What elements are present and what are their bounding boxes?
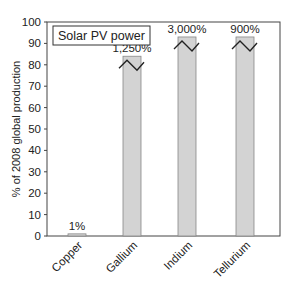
x-tick-label: Copper <box>49 239 84 274</box>
y-tick-label: 20 <box>28 187 41 199</box>
y-tick-label: 100 <box>22 16 41 28</box>
y-axis-ticks: 0102030405060708090100 <box>22 16 47 242</box>
bar-gallium <box>123 56 141 236</box>
bars: 1%1,250%3,000%900% <box>68 23 260 236</box>
bar-tellurium <box>236 37 254 236</box>
y-axis-label: % of 2008 global production <box>10 61 22 197</box>
data-label: 1% <box>69 220 86 232</box>
y-tick-label: 50 <box>28 123 41 135</box>
data-label: 900% <box>230 23 259 35</box>
y-tick-label: 10 <box>28 209 41 221</box>
y-tick-label: 80 <box>28 59 41 71</box>
x-tick-label: Tellurium <box>211 239 252 280</box>
x-axis-labels: CopperGalliumIndiumTellurium <box>49 239 252 280</box>
y-tick-label: 70 <box>28 80 41 92</box>
y-tick-label: 0 <box>35 230 41 242</box>
y-tick-label: 60 <box>28 102 41 114</box>
chart-title: Solar PV power <box>58 29 145 43</box>
x-tick-label: Gallium <box>103 239 139 275</box>
y-tick-label: 90 <box>28 37 41 49</box>
chart: 0102030405060708090100 1%1,250%3,000%900… <box>0 0 295 283</box>
x-tick-label: Indium <box>162 239 195 272</box>
y-tick-label: 40 <box>28 144 41 156</box>
data-label: 3,000% <box>167 23 206 35</box>
bar-indium <box>178 37 196 236</box>
bar-copper <box>68 234 86 236</box>
y-tick-label: 30 <box>28 166 41 178</box>
